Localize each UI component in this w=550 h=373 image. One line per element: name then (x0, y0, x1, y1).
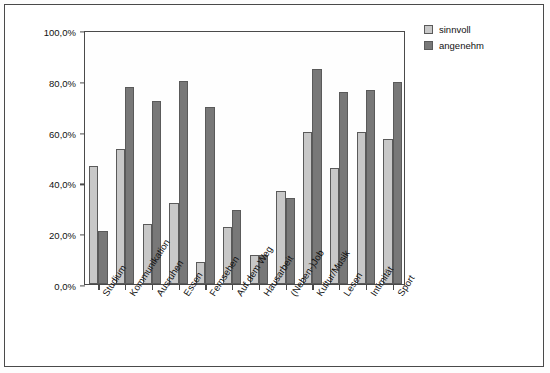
x-tick-mark (98, 284, 99, 290)
plot-area: Prozent, die als sinnvoll/angenehm erleb… (84, 31, 405, 285)
x-tick-mark (205, 284, 206, 290)
legend-swatch-icon (424, 25, 433, 34)
y-tick-label: 60,0% (49, 128, 85, 139)
legend-item[interactable]: angenehm (424, 40, 484, 51)
legend-label: sinnvoll (439, 24, 471, 35)
x-tick-mark (259, 284, 260, 290)
y-tick-label: 20,0% (49, 230, 85, 241)
legend-item[interactable]: sinnvoll (424, 24, 484, 35)
bar (366, 90, 375, 284)
bar (205, 107, 214, 284)
bar (89, 166, 98, 284)
y-tick-label: 40,0% (49, 179, 85, 190)
x-tick-mark (152, 284, 153, 290)
x-tick-mark (125, 284, 126, 290)
legend: sinnvollangenehm (424, 24, 484, 56)
x-tick-mark (232, 284, 233, 290)
x-tick-mark (339, 284, 340, 290)
y-tick-label: 80,0% (49, 77, 85, 88)
x-tick-mark (393, 284, 394, 290)
x-tick-mark (286, 284, 287, 290)
bar (357, 132, 366, 284)
y-tick-label: 0,0% (54, 281, 85, 292)
x-tick-mark (179, 284, 180, 290)
legend-swatch-icon (424, 41, 433, 50)
x-tick-mark (366, 284, 367, 290)
x-tick-mark (312, 284, 313, 290)
bar (98, 231, 107, 284)
y-tick-label: 100,0% (44, 27, 85, 38)
bar (393, 82, 402, 284)
bar (383, 139, 392, 284)
bar (232, 210, 241, 284)
bar (125, 87, 134, 284)
chart-figure: Prozent, die als sinnvoll/angenehm erleb… (0, 0, 550, 373)
legend-label: angenehm (439, 40, 484, 51)
bar (179, 81, 188, 284)
